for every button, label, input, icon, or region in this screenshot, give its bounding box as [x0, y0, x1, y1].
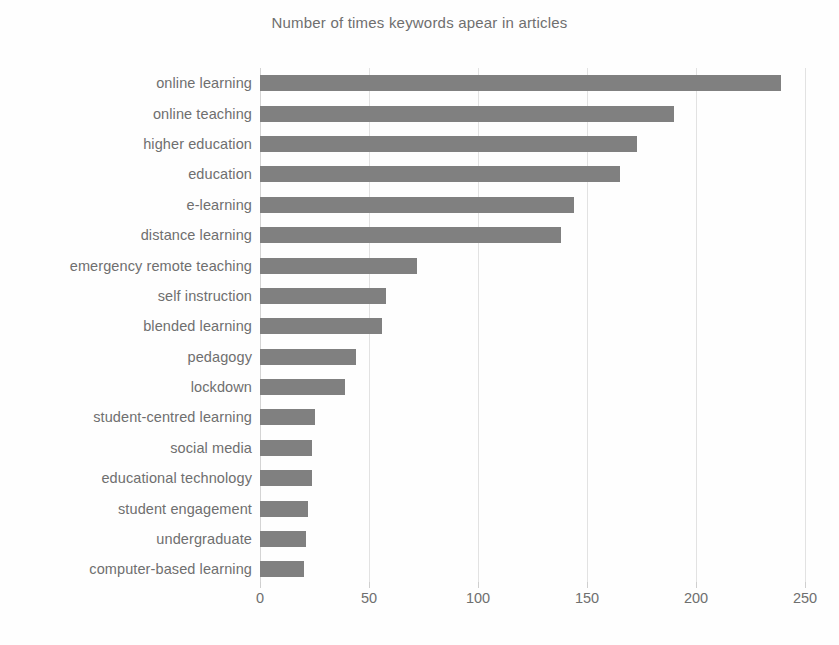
bar[interactable]	[260, 561, 304, 577]
bar[interactable]	[260, 501, 308, 517]
category-label: blended learning	[143, 318, 252, 334]
bar-row	[260, 129, 805, 159]
tick-mark	[478, 582, 479, 588]
category-label: pedagogy	[188, 349, 253, 365]
category-label: higher education	[143, 136, 252, 152]
bar-row	[260, 554, 805, 584]
bars-container	[260, 68, 805, 585]
value-axis-ticks: 050100150200250	[260, 590, 805, 620]
tick-mark	[805, 582, 806, 588]
tick-mark	[260, 582, 261, 588]
category-label: undergraduate	[156, 531, 252, 547]
tick-mark	[369, 582, 370, 588]
bar[interactable]	[260, 349, 356, 365]
bar[interactable]	[260, 288, 386, 304]
bar[interactable]	[260, 136, 637, 152]
category-label: self instruction	[158, 288, 252, 304]
category-label-row: pedagogy	[0, 342, 252, 372]
bar[interactable]	[260, 440, 312, 456]
bar-chart: Number of times keywords apear in articl…	[0, 0, 839, 645]
tick-label: 100	[466, 590, 490, 606]
bar[interactable]	[260, 197, 574, 213]
tick-label: 200	[684, 590, 708, 606]
category-label-row: student engagement	[0, 493, 252, 523]
bar-row	[260, 250, 805, 280]
bar[interactable]	[260, 106, 674, 122]
bar-row	[260, 68, 805, 98]
category-label-row: undergraduate	[0, 524, 252, 554]
category-label: social media	[170, 440, 252, 456]
category-label-row: emergency remote teaching	[0, 250, 252, 280]
category-label-row: blended learning	[0, 311, 252, 341]
category-label-row: education	[0, 159, 252, 189]
tick-label: 250	[793, 590, 817, 606]
category-label: student engagement	[118, 501, 252, 517]
bar-row	[260, 524, 805, 554]
bar[interactable]	[260, 318, 382, 334]
category-label: distance learning	[141, 227, 252, 243]
category-label: online teaching	[153, 106, 252, 122]
category-label-row: student-centred learning	[0, 402, 252, 432]
category-label: computer-based learning	[89, 561, 252, 577]
bar[interactable]	[260, 227, 561, 243]
tick-label: 0	[256, 590, 264, 606]
bar-row	[260, 220, 805, 250]
category-label-row: distance learning	[0, 220, 252, 250]
category-label: e-learning	[187, 197, 253, 213]
category-label-row: educational technology	[0, 463, 252, 493]
tick-mark	[587, 582, 588, 588]
category-label: education	[188, 166, 252, 182]
bar[interactable]	[260, 531, 306, 547]
category-label-row: online learning	[0, 68, 252, 98]
tick-label: 150	[575, 590, 599, 606]
bar-row	[260, 98, 805, 128]
category-label-row: social media	[0, 433, 252, 463]
category-label: lockdown	[191, 379, 252, 395]
bar[interactable]	[260, 258, 417, 274]
bar[interactable]	[260, 409, 315, 425]
bar-row	[260, 190, 805, 220]
category-label-row: online teaching	[0, 98, 252, 128]
category-label: online learning	[156, 75, 252, 91]
bar[interactable]	[260, 470, 312, 486]
bar-row	[260, 402, 805, 432]
bar-row	[260, 493, 805, 523]
category-label-row: higher education	[0, 129, 252, 159]
bar[interactable]	[260, 379, 345, 395]
bar-row	[260, 281, 805, 311]
bar-row	[260, 342, 805, 372]
chart-title: Number of times keywords apear in articl…	[0, 14, 839, 31]
bar[interactable]	[260, 166, 620, 182]
bar-row	[260, 463, 805, 493]
bar-row	[260, 159, 805, 189]
category-label-row: computer-based learning	[0, 554, 252, 584]
bar-row	[260, 433, 805, 463]
gridline	[805, 68, 806, 585]
category-label-row: lockdown	[0, 372, 252, 402]
category-axis-labels: online learningonline teachinghigher edu…	[0, 68, 252, 585]
category-label: emergency remote teaching	[70, 258, 252, 274]
bar-row	[260, 311, 805, 341]
tick-mark	[696, 582, 697, 588]
category-label: educational technology	[101, 470, 252, 486]
plot-area	[260, 68, 805, 585]
category-label-row: e-learning	[0, 190, 252, 220]
bar[interactable]	[260, 75, 781, 91]
category-label-row: self instruction	[0, 281, 252, 311]
category-label: student-centred learning	[93, 409, 252, 425]
tick-label: 50	[361, 590, 377, 606]
bar-row	[260, 372, 805, 402]
